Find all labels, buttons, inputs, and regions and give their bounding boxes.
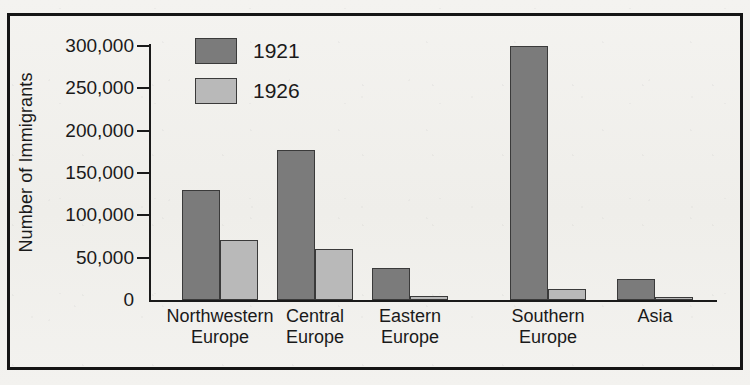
legend-swatch-1921: [195, 38, 237, 64]
y-axis-tick-label: 150,000: [65, 162, 134, 184]
bar-1921: [510, 46, 548, 300]
bar-1921: [372, 268, 410, 300]
y-axis-tick-label: 300,000: [65, 35, 134, 57]
x-axis-category-label-line: Asia: [597, 306, 713, 327]
y-axis-tick-label: 100,000: [65, 204, 134, 226]
y-axis-tick: [137, 172, 149, 174]
bar-1926: [315, 249, 353, 300]
y-axis-tick-label: 0: [123, 289, 134, 311]
y-axis-tick-label: 50,000: [76, 247, 134, 269]
bar-1926: [220, 240, 258, 300]
legend-item-1921: 1921: [195, 38, 300, 64]
legend-label-1921: 1921: [253, 39, 300, 63]
x-axis-category-label: Asia: [597, 306, 713, 327]
x-axis-category-label-line: Europe: [352, 327, 468, 348]
y-axis-tick: [137, 45, 149, 47]
x-axis-category-label-line: Eastern: [352, 306, 468, 327]
legend-item-1926: 1926: [195, 78, 300, 104]
x-axis-baseline: [149, 300, 717, 302]
y-axis-tick: [137, 214, 149, 216]
y-axis-tick-label: 200,000: [65, 120, 134, 142]
x-axis-category-label-line: Southern: [490, 306, 606, 327]
bar-1921: [277, 150, 315, 300]
chart-figure: Number of Immigrants 300,000250,000200,0…: [0, 0, 750, 385]
bar-1921: [182, 190, 220, 300]
x-axis-category-label: EasternEurope: [352, 306, 468, 348]
y-axis-tick: [137, 87, 149, 89]
legend-swatch-1926: [195, 78, 237, 104]
y-axis-tick-label: 250,000: [65, 77, 134, 99]
y-axis-tick: [137, 257, 149, 259]
x-axis-category-label: SouthernEurope: [490, 306, 606, 348]
chart-legend: 1921 1926: [195, 38, 300, 118]
legend-label-1926: 1926: [253, 79, 300, 103]
bar-1921: [617, 279, 655, 300]
y-axis-tick-labels: 300,000250,000200,000150,000100,00050,00…: [0, 0, 134, 385]
x-axis-category-label-line: Europe: [490, 327, 606, 348]
y-axis-tick: [137, 130, 149, 132]
bar-1926: [548, 289, 586, 300]
